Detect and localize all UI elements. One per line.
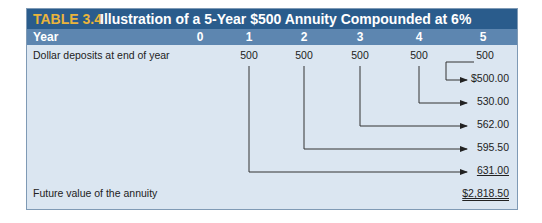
annuity-table: TABLE 3.4 Illustration of a 5-Year $500 … [26,8,518,210]
compounding-arrows [27,9,519,211]
